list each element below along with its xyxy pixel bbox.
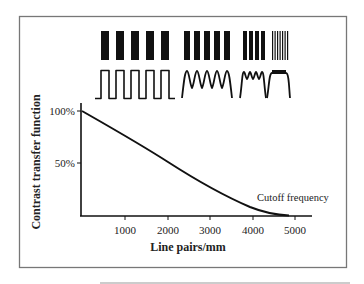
bar-group-2 — [184, 31, 230, 60]
x-tick-2000: 2000 — [157, 224, 180, 236]
bar-group-3 — [243, 31, 265, 60]
x-tick-4000: 4000 — [242, 224, 265, 236]
profile-sinusoid — [182, 71, 232, 98]
x-axis-label: Line pairs/mm — [150, 240, 226, 254]
profile-plateau — [267, 73, 290, 98]
bar-group-4 — [272, 31, 288, 60]
cutoff-frequency-annotation: Cutoff frequency — [257, 192, 330, 203]
x-tick-1000: 1000 — [114, 224, 137, 236]
bar-group-1 — [101, 31, 169, 60]
y-tick-100: 100% — [49, 105, 75, 117]
intensity-profiles — [95, 70, 290, 99]
profile-square — [95, 71, 175, 99]
profile-reduced — [240, 72, 266, 98]
y-tick-50: 50% — [55, 157, 75, 169]
ctf-figure: 100% 50% 1000 2000 3000 4000 5000 Line p… — [0, 0, 364, 284]
x-tick-5000: 5000 — [284, 224, 307, 236]
bar-targets — [101, 31, 288, 60]
y-axis-label: Contrast transfer function — [29, 94, 43, 229]
x-tick-3000: 3000 — [199, 224, 222, 236]
